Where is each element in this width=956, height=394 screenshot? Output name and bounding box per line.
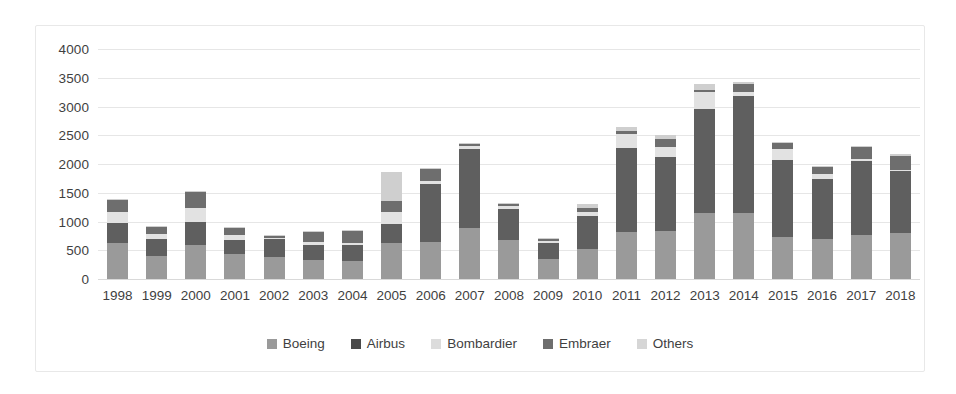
bar-segment-boeing[interactable] xyxy=(420,242,441,279)
bar-segment-bombardier[interactable] xyxy=(772,149,793,160)
bar-group-2016[interactable]: 2016 xyxy=(803,49,842,279)
bar-segment-boeing[interactable] xyxy=(851,235,872,279)
bar-segment-embraer[interactable] xyxy=(303,232,324,242)
bar-segment-embraer[interactable] xyxy=(890,156,911,170)
bar-segment-embraer[interactable] xyxy=(420,169,441,181)
bar-segment-embraer[interactable] xyxy=(381,201,402,212)
bar-segment-bombardier[interactable] xyxy=(655,147,676,157)
bar-group-2008[interactable]: 2008 xyxy=(489,49,528,279)
stacked-bar[interactable] xyxy=(459,143,480,279)
stacked-bar[interactable] xyxy=(420,168,441,279)
bar-segment-embraer[interactable] xyxy=(733,84,754,93)
bar-segment-airbus[interactable] xyxy=(733,96,754,213)
bar-segment-boeing[interactable] xyxy=(303,260,324,279)
stacked-bar[interactable] xyxy=(812,166,833,279)
stacked-bar[interactable] xyxy=(694,84,715,279)
bar-group-2007[interactable]: 2007 xyxy=(450,49,489,279)
bar-segment-airbus[interactable] xyxy=(342,245,363,261)
bar-segment-embraer[interactable] xyxy=(185,192,206,208)
stacked-bar[interactable] xyxy=(577,204,598,279)
bar-segment-airbus[interactable] xyxy=(616,148,637,233)
bar-group-1999[interactable]: 1999 xyxy=(137,49,176,279)
stacked-bar[interactable] xyxy=(107,199,128,279)
bar-group-2006[interactable]: 2006 xyxy=(411,49,450,279)
bar-segment-airbus[interactable] xyxy=(577,216,598,249)
stacked-bar[interactable] xyxy=(890,154,911,279)
bar-segment-boeing[interactable] xyxy=(812,239,833,279)
stacked-bar[interactable] xyxy=(538,238,559,279)
bar-segment-airbus[interactable] xyxy=(538,243,559,259)
bar-segment-airbus[interactable] xyxy=(694,109,715,213)
bar-segment-boeing[interactable] xyxy=(224,254,245,279)
legend-item-bombardier[interactable]: Bombardier xyxy=(431,336,517,351)
legend-item-airbus[interactable]: Airbus xyxy=(351,336,405,351)
bar-segment-boeing[interactable] xyxy=(694,213,715,279)
bar-segment-bombardier[interactable] xyxy=(381,212,402,224)
bar-group-2014[interactable]: 2014 xyxy=(724,49,763,279)
bar-segment-airbus[interactable] xyxy=(420,184,441,242)
bar-segment-boeing[interactable] xyxy=(498,240,519,279)
bar-segment-airbus[interactable] xyxy=(224,240,245,253)
stacked-bar[interactable] xyxy=(851,146,872,279)
bar-segment-airbus[interactable] xyxy=(812,179,833,239)
bar-segment-airbus[interactable] xyxy=(851,161,872,235)
bar-segment-boeing[interactable] xyxy=(772,237,793,279)
bar-group-2015[interactable]: 2015 xyxy=(763,49,802,279)
bar-segment-bombardier[interactable] xyxy=(107,212,128,223)
bar-segment-boeing[interactable] xyxy=(655,231,676,279)
bar-group-2004[interactable]: 2004 xyxy=(333,49,372,279)
stacked-bar[interactable] xyxy=(616,127,637,279)
bar-segment-airbus[interactable] xyxy=(655,157,676,231)
bar-segment-boeing[interactable] xyxy=(616,232,637,279)
bar-segment-airbus[interactable] xyxy=(185,222,206,246)
stacked-bar[interactable] xyxy=(381,172,402,279)
bar-group-2005[interactable]: 2005 xyxy=(372,49,411,279)
stacked-bar[interactable] xyxy=(498,203,519,279)
stacked-bar[interactable] xyxy=(303,231,324,279)
bar-segment-boeing[interactable] xyxy=(459,228,480,279)
stacked-bar[interactable] xyxy=(733,82,754,279)
bar-segment-embraer[interactable] xyxy=(812,167,833,174)
stacked-bar[interactable] xyxy=(655,135,676,279)
bar-segment-airbus[interactable] xyxy=(498,209,519,241)
bar-segment-boeing[interactable] xyxy=(185,245,206,279)
bar-segment-embraer[interactable] xyxy=(146,227,167,234)
bar-group-2011[interactable]: 2011 xyxy=(607,49,646,279)
bar-segment-embraer[interactable] xyxy=(107,200,128,212)
bar-segment-boeing[interactable] xyxy=(577,249,598,279)
bar-segment-bombardier[interactable] xyxy=(185,208,206,221)
bar-segment-boeing[interactable] xyxy=(538,259,559,279)
bar-group-2001[interactable]: 2001 xyxy=(215,49,254,279)
stacked-bar[interactable] xyxy=(224,227,245,279)
bar-segment-embraer[interactable] xyxy=(655,139,676,146)
bar-group-2003[interactable]: 2003 xyxy=(294,49,333,279)
bar-segment-boeing[interactable] xyxy=(890,233,911,279)
bar-segment-airbus[interactable] xyxy=(772,160,793,237)
stacked-bar[interactable] xyxy=(146,226,167,279)
stacked-bar[interactable] xyxy=(772,142,793,279)
bar-group-2010[interactable]: 2010 xyxy=(568,49,607,279)
bar-group-2009[interactable]: 2009 xyxy=(529,49,568,279)
bar-segment-airbus[interactable] xyxy=(146,239,167,256)
bar-segment-airbus[interactable] xyxy=(890,171,911,233)
bar-segment-boeing[interactable] xyxy=(264,257,285,279)
bar-segment-bombardier[interactable] xyxy=(616,134,637,148)
legend-item-embraer[interactable]: Embraer xyxy=(543,336,611,351)
bar-segment-boeing[interactable] xyxy=(381,243,402,279)
bar-segment-airbus[interactable] xyxy=(107,223,128,243)
bar-group-2000[interactable]: 2000 xyxy=(176,49,215,279)
bar-segment-embraer[interactable] xyxy=(851,147,872,159)
bar-group-2018[interactable]: 2018 xyxy=(881,49,920,279)
legend-item-boeing[interactable]: Boeing xyxy=(267,336,325,351)
legend-item-others[interactable]: Others xyxy=(637,336,694,351)
bar-segment-boeing[interactable] xyxy=(342,261,363,279)
bar-group-2017[interactable]: 2017 xyxy=(842,49,881,279)
bar-group-1998[interactable]: 1998 xyxy=(98,49,137,279)
bar-segment-boeing[interactable] xyxy=(146,256,167,279)
bar-segment-boeing[interactable] xyxy=(107,243,128,279)
bar-group-2012[interactable]: 2012 xyxy=(646,49,685,279)
bar-segment-embraer[interactable] xyxy=(342,231,363,243)
bar-segment-airbus[interactable] xyxy=(381,224,402,244)
bar-segment-boeing[interactable] xyxy=(733,213,754,279)
bar-segment-airbus[interactable] xyxy=(303,245,324,261)
